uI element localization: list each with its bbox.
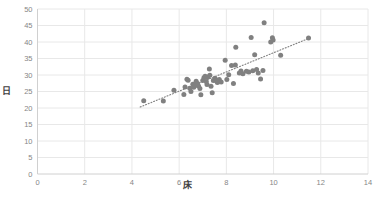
y-axis-tick-labels: 05101520253035404550 [24,5,32,179]
y-tick-label: 45 [24,21,32,30]
scatter-chart: 05101520253035404550 02468101214 日 床 [0,0,374,197]
data-point [233,45,238,50]
data-point [207,73,212,78]
data-point [186,78,191,83]
data-point [278,53,283,58]
data-point [181,92,186,97]
y-tick-label: 5 [28,153,32,162]
plot-area: 05101520253035404550 02468101214 [0,0,374,197]
data-point [256,71,261,76]
trendline [140,37,311,107]
data-point [306,36,311,41]
trendline-path [140,37,311,107]
y-tick-label: 15 [24,120,32,129]
data-point [260,68,265,73]
data-point [233,63,238,68]
y-tick-label: 0 [28,170,32,179]
data-point [262,20,267,25]
data-point [258,76,263,81]
data-point [231,81,236,86]
y-tick-label: 40 [24,38,32,47]
data-point [141,98,146,103]
y-tick-label: 20 [24,104,32,113]
y-tick-label: 25 [24,87,32,96]
data-point [224,77,229,82]
gridlines [38,9,369,174]
y-tick-label: 50 [24,5,32,14]
data-point [161,99,166,104]
data-point [209,84,214,89]
data-point [188,89,193,94]
data-point [197,86,202,91]
data-point [183,84,188,89]
data-point [252,52,257,57]
data-point [226,72,231,77]
data-point [223,58,228,63]
y-axis-title: 日 [2,86,11,96]
y-tick-label: 10 [24,137,32,146]
data-point [207,67,212,72]
data-point [271,38,276,43]
data-point [249,35,254,40]
data-point [210,90,215,95]
data-point [171,88,176,93]
y-tick-label: 35 [24,54,32,63]
y-tick-label: 30 [24,71,32,80]
data-point [219,79,224,84]
x-axis-title: 床 [0,180,374,190]
data-point [198,92,203,97]
